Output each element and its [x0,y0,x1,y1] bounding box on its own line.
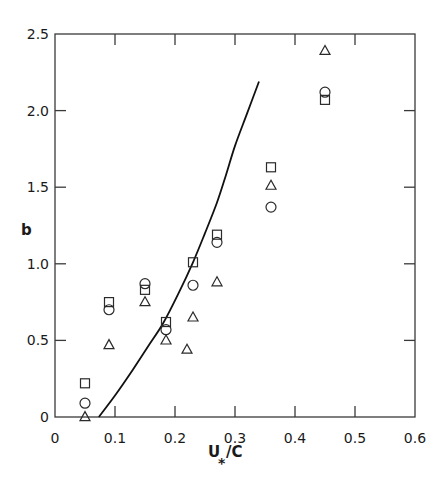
fit-curve [99,81,259,417]
square-marker [81,379,90,388]
square-marker [267,163,276,172]
triangle-marker [140,297,150,306]
triangle-marker [182,344,192,353]
theory-curve [99,81,259,417]
triangle-marker [212,277,222,286]
y-tick-label: 2.0 [27,103,49,119]
x-tick-label: 0.6 [404,430,426,446]
circle-marker [188,280,198,290]
circle-marker [266,202,276,212]
x-axis-label-rest: /C [226,443,243,461]
tick-labels: 00.10.20.30.40.50.600.51.01.52.02.5 [27,26,426,446]
y-tick-label: 0 [40,409,49,425]
chart: 00.10.20.30.40.50.600.51.01.52.02.5 b U … [0,0,446,488]
y-tick-label: 1.5 [27,179,49,195]
y-tick-label: 2.5 [27,26,49,42]
x-axis-label-star: * [218,455,226,471]
square-marker [141,285,150,294]
y-axis-label: b [21,221,32,239]
triangle-marker [320,45,330,54]
triangle-marker [104,340,114,349]
y-tick-label: 1.0 [27,256,49,272]
x-axis-label: U * /C [208,443,243,471]
triangle-marker [188,312,198,321]
triangle-marker [161,335,171,344]
plot-border [55,34,415,417]
plot-frame [55,34,415,417]
y-tick-label: 0.5 [27,332,49,348]
axis-ticks [55,34,415,417]
x-tick-label: 0.1 [104,430,126,446]
x-tick-label: 0.5 [344,430,366,446]
triangle-marker [80,412,90,421]
triangle-marker [266,180,276,189]
x-tick-label: 0.4 [284,430,306,446]
x-tick-label: 0 [51,430,60,446]
circle-marker [80,398,90,408]
circle-marker [140,279,150,289]
x-tick-label: 0.2 [164,430,186,446]
